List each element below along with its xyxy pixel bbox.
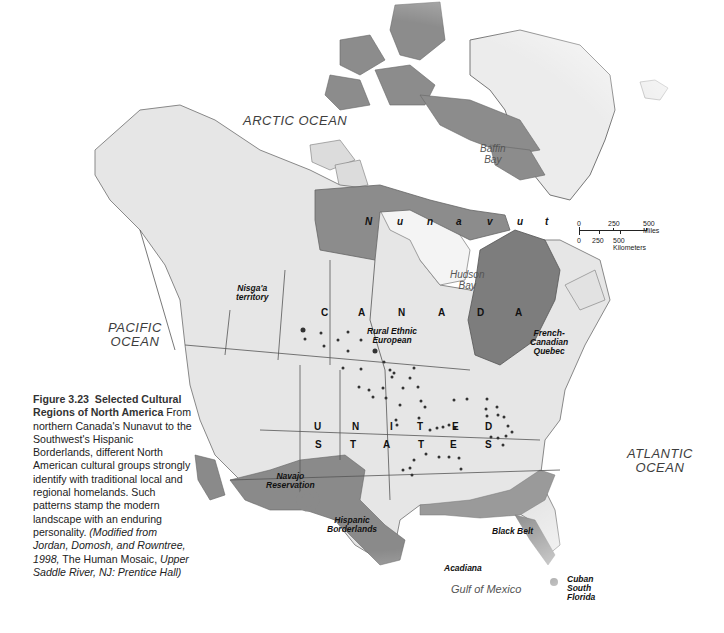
hudson-bay-label: Hudson Bay	[450, 270, 484, 291]
scale-km-0: 0	[577, 237, 581, 244]
canada-letter: D	[477, 308, 484, 319]
canada-letter: N	[398, 308, 405, 319]
nunavut-letter: u	[517, 217, 523, 228]
pacific-line2: OCEAN	[108, 335, 162, 349]
rural-line2: European	[367, 336, 417, 345]
canada-letter: C	[321, 308, 328, 319]
nisgaa-territory-label: Nisga'a territory	[236, 284, 269, 302]
black-belt-label: Black Belt	[492, 527, 533, 536]
pacific-ocean-label: PACIFIC OCEAN	[108, 321, 162, 348]
figure-number: Figure 3.23	[33, 393, 89, 405]
nunavut-letter: t	[545, 217, 548, 228]
navajo-reservation-label: Navajo Reservation	[266, 472, 315, 490]
french-canadian-quebec-label: French- Canadian Quebec	[530, 329, 568, 356]
french-line3: Quebec	[530, 347, 568, 356]
navajo-line2: Reservation	[266, 481, 315, 490]
us-letter: N	[352, 422, 359, 433]
baffin-bay-label: Baffin Bay	[480, 144, 506, 165]
baffin-line2: Bay	[480, 155, 506, 166]
nisgaa-line2: territory	[236, 293, 269, 302]
hispanic-borderlands-label: Hispanic Borderlands	[327, 516, 377, 534]
us-letter: U	[314, 422, 321, 433]
us-letter: T	[350, 440, 356, 451]
figure-body: From northern Canada's Nunavut to the So…	[33, 406, 192, 538]
us-letter: A	[383, 440, 390, 451]
nunavut-letter: a	[456, 217, 462, 228]
atlantic-line1: ATLANTIC	[627, 447, 693, 461]
scale-miles-250: 250	[608, 220, 620, 227]
scale-km-500: 500 Kilometers	[613, 237, 647, 251]
baffin-line1: Baffin	[480, 144, 506, 155]
us-letter: T	[418, 440, 424, 451]
scale-km-250: 250	[592, 237, 604, 244]
us-letter: D	[485, 422, 492, 433]
nunavut-letter: u	[397, 217, 403, 228]
us-letter: E	[450, 440, 457, 451]
cuban-line3: Florida	[567, 593, 595, 602]
us-letter: E	[452, 422, 459, 433]
nunavut-letter: N	[365, 217, 372, 228]
nunavut-letter: n	[427, 217, 433, 228]
acadiana-label: Acadiana	[444, 564, 482, 573]
canada-letter: A	[438, 308, 445, 319]
scale-bar: 0 250 500 Miles 0 250 500 Kilometers	[577, 220, 647, 247]
scale-miles-0: 0	[577, 220, 581, 227]
us-letter: S	[315, 440, 322, 451]
figure-caption: Figure 3.23 Selected Cultural Regions of…	[33, 393, 193, 579]
gulf-of-mexico-label: Gulf of Mexico	[451, 584, 521, 596]
hudson-line2: Bay	[450, 281, 484, 292]
cuban-south-florida-label: Cuban South Florida	[567, 575, 595, 602]
atlantic-line2: OCEAN	[627, 461, 693, 475]
hudson-line1: Hudson	[450, 270, 484, 281]
pacific-line1: PACIFIC	[108, 321, 162, 335]
scale-line	[579, 230, 647, 237]
us-letter: S	[485, 440, 492, 451]
arctic-ocean-label: ARCTIC OCEAN	[243, 114, 347, 128]
rural-ethnic-european-label: Rural Ethnic European	[367, 327, 417, 345]
nunavut-letter: v	[487, 217, 493, 228]
atlantic-ocean-label: ATLANTIC OCEAN	[627, 447, 693, 474]
hispanic-line2: Borderlands	[327, 525, 377, 534]
us-letter: I	[390, 422, 393, 433]
canada-letter: A	[358, 308, 365, 319]
us-letter: T	[417, 422, 423, 433]
figure-source-book: The Human Mosaic,	[62, 553, 157, 565]
canada-letter: A	[515, 308, 522, 319]
